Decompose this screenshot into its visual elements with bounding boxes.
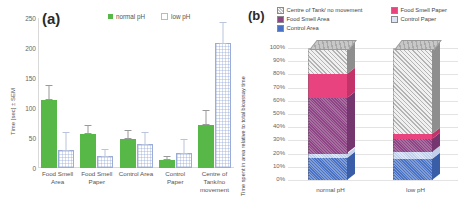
legend-swatch-centre-of-tank	[277, 7, 284, 14]
errorbar-normal-food-smell-area	[49, 85, 50, 101]
panel-b-ytick-20: 20%	[258, 150, 285, 156]
panel-a-y-axis-title: Time [sec] ± SEM	[10, 123, 16, 135]
category-label-food-smell-area: Food Smell Area	[38, 170, 77, 194]
panel-a-ytick-50: 50	[12, 135, 36, 142]
bar-group-control-area	[116, 18, 155, 168]
category-label-control-paper: Control Paper	[156, 170, 195, 194]
segment-control-area-normal-ph	[308, 158, 348, 180]
bar-wrap-normal	[41, 100, 57, 168]
panel-b-ytick-0: 0%	[258, 176, 285, 182]
panel-a-bar-chart: (a) Time [sec] ± SEM normal pH low pH 25…	[0, 0, 240, 207]
panel-b-stacked-chart: (b) Centre of Tank/ no movement Food Sme…	[240, 0, 467, 207]
legend-item-food-smell-area: Food Smell Area	[277, 15, 387, 24]
bar-normal-control-area	[120, 139, 136, 168]
stacked-bar-normal-ph	[308, 48, 354, 180]
errorbar-normal-centre-of-tank	[205, 110, 206, 124]
errorbar-low-food-smell-paper	[105, 149, 106, 157]
panel-b-ytick-50: 50%	[258, 110, 285, 116]
segment-centre-of-tank-normal-ph	[308, 48, 348, 74]
legend-label-control-paper: Control Paper	[401, 15, 437, 24]
bar-group-food-smell-area	[38, 18, 77, 168]
panel-b-ytick-40: 40%	[258, 123, 285, 129]
panel-b-y-axis-title: Time spent in area relative to total bio…	[240, 76, 246, 196]
legend-item-food-smell-paper: Food Smell Paper	[391, 6, 463, 15]
category-label-low-ph: low pH	[393, 186, 439, 193]
panel-b-ytick-30: 30%	[258, 136, 285, 142]
bar-normal-centre-of-tank	[198, 125, 214, 168]
bar-group-centre-of-tank	[195, 18, 234, 168]
bar-wrap-low	[215, 43, 231, 168]
segment-side-face	[432, 42, 440, 134]
panel-b-ytick-80: 80%	[258, 70, 285, 76]
errorbar-normal-control-area	[127, 130, 128, 140]
bar-normal-food-smell-paper	[80, 134, 96, 168]
panel-b-label: (b)	[248, 8, 265, 23]
legend-swatch-control-area	[277, 25, 284, 32]
bar-normal-control-paper	[159, 160, 175, 168]
errorbar-normal-control-paper	[166, 156, 167, 160]
legend-label-control-area: Control Area	[287, 24, 319, 33]
category-label-normal-ph: normal pH	[308, 186, 354, 193]
panel-b-ytick-60: 60%	[258, 97, 285, 103]
panel-a-ytick-150: 150	[12, 75, 36, 82]
legend-item-control-area: Control Area	[277, 24, 387, 33]
bar-wrap-low	[58, 150, 74, 168]
panel-b-legend: Centre of Tank/ no movement Food Smell P…	[277, 6, 467, 33]
panel-b-plot-area: 100% 90% 80% 70% 60% 50% 40% 30% 20% 10%…	[288, 48, 458, 180]
errorbar-low-control-area	[144, 132, 145, 145]
errorbar-low-food-smell-area	[66, 132, 67, 151]
segment-food-smell-area-low-ph	[393, 139, 433, 152]
bar-wrap-normal	[120, 139, 136, 168]
bar-wrap-normal	[198, 125, 214, 168]
legend-label-centre-of-tank: Centre of Tank/ no movement	[287, 6, 363, 15]
errorbar-low-centre-of-tank	[222, 22, 223, 44]
bar-low-food-smell-paper	[97, 156, 113, 168]
panel-a-ytick-100: 100	[12, 105, 36, 112]
panel-a-bar-groups	[38, 18, 234, 168]
segment-control-paper-normal-ph	[308, 154, 348, 158]
legend-label-food-smell-area: Food Smell Area	[287, 15, 330, 24]
segment-side-face	[347, 92, 355, 154]
category-label-control-area: Control Area	[116, 170, 155, 194]
bar-top-cap	[394, 40, 442, 50]
bar-wrap-low	[97, 156, 113, 168]
segment-control-paper-low-ph	[393, 152, 433, 159]
panel-a-category-labels: Food Smell Area Food Smell Paper Control…	[38, 170, 234, 194]
panel-b-ytick-70: 70%	[258, 84, 285, 90]
category-label-centre-of-tank: Centre of Tank/no movement	[195, 170, 234, 194]
bar-normal-food-smell-area	[41, 100, 57, 168]
segment-food-smell-paper-low-ph	[393, 134, 433, 139]
bar-wrap-low	[137, 144, 153, 168]
panel-a-ytick-250: 250	[12, 15, 36, 22]
legend-swatch-control-paper	[391, 16, 398, 23]
panel-b-ytick-100: 100%	[258, 44, 285, 50]
errorbar-low-control-paper	[183, 139, 184, 155]
bar-wrap-low	[176, 153, 192, 168]
bar-top-cap	[309, 40, 357, 50]
legend-swatch-food-smell-area	[277, 16, 284, 23]
panel-a-ytick-200: 200	[12, 45, 36, 52]
errorbar-normal-food-smell-paper	[88, 125, 89, 135]
legend-item-control-paper: Control Paper	[391, 15, 463, 24]
panel-b-ytick-90: 90%	[258, 57, 285, 63]
bar-wrap-normal	[80, 134, 96, 168]
segment-control-area-low-ph	[393, 159, 433, 180]
bar-wrap-normal	[159, 160, 175, 168]
panel-a-plot-area: 250 200 150 100 50 0	[38, 18, 234, 168]
bar-low-centre-of-tank	[215, 43, 231, 168]
segment-food-smell-paper-normal-ph	[308, 74, 348, 98]
legend-item-centre-of-tank: Centre of Tank/ no movement	[277, 6, 387, 15]
category-label-food-smell-paper: Food Smell Paper	[77, 170, 116, 194]
bar-group-food-smell-paper	[77, 18, 116, 168]
bar-group-control-paper	[156, 18, 195, 168]
segment-food-smell-area-normal-ph	[308, 98, 348, 153]
panel-b-category-labels: normal pH low pH	[288, 186, 458, 193]
panel-b-ytick-10: 10%	[258, 163, 285, 169]
bar-low-control-area	[137, 144, 153, 168]
panel-a-ytick-0: 0	[12, 165, 36, 172]
panel-b-stacked-bars	[288, 48, 458, 180]
legend-swatch-food-smell-paper	[391, 7, 398, 14]
bar-low-food-smell-area	[58, 150, 74, 168]
bar-low-control-paper	[176, 153, 192, 168]
figure-panels: (a) Time [sec] ± SEM normal pH low pH 25…	[0, 0, 467, 207]
